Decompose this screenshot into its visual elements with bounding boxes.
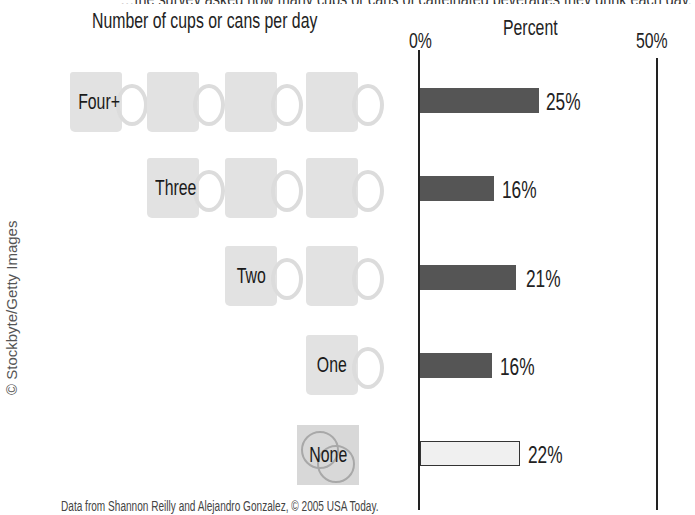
bar-one [420,353,492,378]
category-label-none: None [297,425,359,485]
cut-off-question-text: …the survey asked how many cups or cans … [120,0,695,4]
bar-four-plus [420,88,539,113]
mug-icon [306,158,380,220]
mug-icon [147,72,221,134]
bar-none [420,441,520,466]
photo-credit: © Stockbyte/Getty Images [3,221,20,395]
value-label-none: 22% [528,442,576,467]
fifty-percent-line [656,58,658,510]
none-icon: None [297,425,359,485]
tick-50-label: 50% [636,28,680,54]
bar-three [420,176,494,201]
value-label-three: 16% [502,177,550,202]
value-label-two: 21% [526,266,574,291]
source-note: Data from Shannon Reilly and Alejandro G… [61,498,502,514]
category-label-four-plus: Four+ [70,72,122,132]
x-axis-header: Percent [503,15,579,41]
bar-two [420,265,516,290]
mug-icon: Three [147,158,221,220]
category-label-three: Three [147,158,199,218]
category-label-two: Two [225,246,277,306]
mug-icon [225,72,299,134]
category-label-one: One [306,335,358,395]
mug-icon [306,72,380,134]
value-label-one: 16% [500,354,548,379]
value-label-four-plus: 25% [546,89,594,114]
mug-icon: Two [225,246,299,308]
tick-0-label: 0% [409,28,441,54]
mug-icon [306,246,380,308]
mug-icon [225,158,299,220]
y-axis-header: Number of cups or cans per day [92,8,405,34]
mug-icon: Four+ [70,72,144,134]
mug-icon: One [306,335,380,397]
